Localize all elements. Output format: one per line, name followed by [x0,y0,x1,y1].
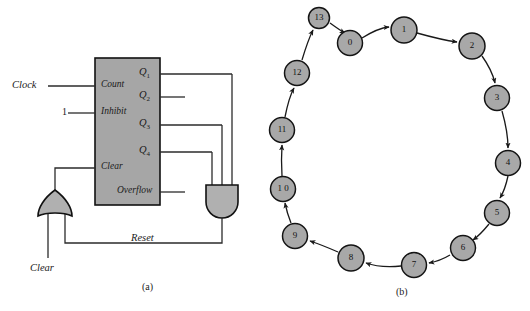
state-node-label: 13 [299,12,339,22]
pin-label-overflow: Overflow [117,185,152,195]
state-node-label: 3 [477,92,517,102]
figure-vector [0,0,530,311]
label-reset: Reset [131,232,154,243]
state-node-label: 5 [477,207,517,217]
and-gate-shape [206,185,238,218]
state-node-label: 6 [443,242,483,252]
state-node-label: 0 [330,37,370,47]
state-node-label: 4 [488,157,528,167]
state-node-label: 9 [275,230,315,240]
arrow-5-to-6 [473,224,489,240]
pin-label-clear: Clear [101,161,123,171]
circuit-diagram [38,58,238,258]
label-inhibit-constant: 1 [62,106,67,117]
arrow-12-to-13 [302,30,313,60]
arrow-8-to-9 [310,241,338,252]
pin-label-q3: Q3 [139,117,150,131]
state-node-label: 11 [262,124,302,134]
wire-or-to-clear [55,168,95,190]
state-node-label: 8 [331,252,371,262]
state-node-label: 1 [384,24,424,34]
state-node-label: 12 [277,67,317,77]
caption-b: (b) [396,286,408,297]
arrow-4-to-5 [500,176,508,198]
pin-label-q4: Q4 [139,144,150,158]
arrow-9-to-10 [285,203,291,223]
pin-label-q1: Q1 [139,66,150,80]
arrow-2-to-3 [482,56,495,83]
label-clear-external: Clear [30,262,54,273]
label-clock: Clock [12,79,37,90]
state-node-label: 2 [452,40,492,50]
or-gate-shape [38,190,72,216]
arrow-11-to-12 [285,88,294,117]
arrow-1-to-2 [417,33,457,42]
pin-label-count: Count [101,79,124,89]
caption-a: (a) [142,281,153,292]
arrow-13-to-0 [330,23,345,33]
state-node-label: 7 [394,259,434,269]
arrow-10-to-11 [282,145,283,176]
pin-label-inhibit: Inhibit [101,106,126,116]
pin-label-q2: Q2 [139,89,150,103]
figure-root: Clock 1 Clear Count Inhibit Clear Q1 Q2 … [0,0,530,311]
state-node-label: 1 0 [263,183,303,193]
arrow-3-to-4 [502,111,508,148]
